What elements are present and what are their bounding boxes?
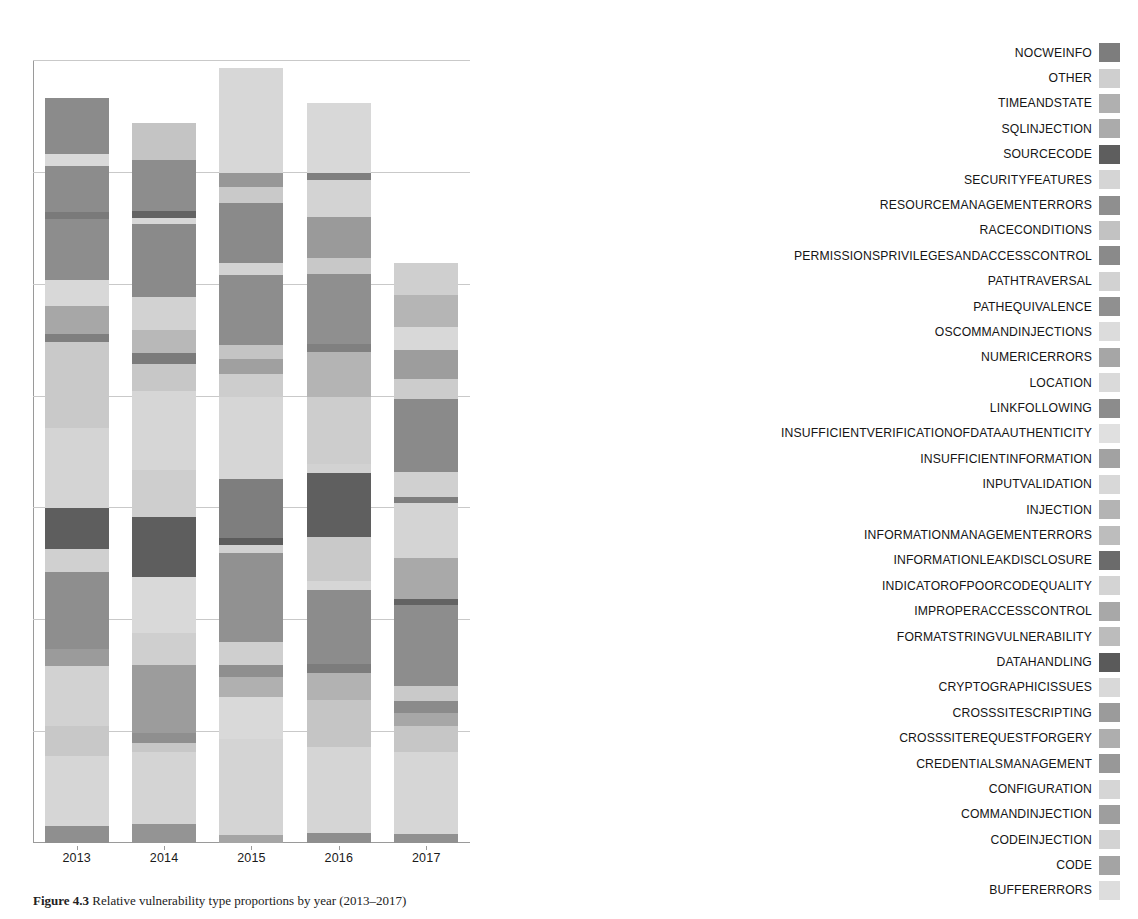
bar-segment[interactable]: [307, 747, 371, 832]
bar-segment[interactable]: [132, 470, 196, 518]
bar-stack[interactable]: [219, 68, 283, 843]
legend-item[interactable]: CRYPTOGRAPHICISSUES: [650, 675, 1120, 700]
legend-item[interactable]: INJECTION: [650, 497, 1120, 522]
legend-item[interactable]: SECURITYFEATURES: [650, 167, 1120, 192]
bar-segment[interactable]: [219, 173, 283, 187]
bar-segment[interactable]: [394, 558, 458, 599]
bar-stack[interactable]: [307, 103, 371, 843]
bar-segment[interactable]: [394, 327, 458, 350]
bar-segment[interactable]: [45, 666, 109, 726]
bar-segment[interactable]: [394, 701, 458, 713]
bar-segment[interactable]: [307, 274, 371, 344]
bar-segment[interactable]: [307, 581, 371, 590]
bar-segment[interactable]: [132, 733, 196, 742]
bar-segment[interactable]: [132, 824, 196, 843]
bar-segment[interactable]: [45, 826, 109, 842]
bar-segment[interactable]: [394, 686, 458, 702]
bar-segment[interactable]: [219, 345, 283, 359]
bar-segment[interactable]: [394, 295, 458, 327]
bar-segment[interactable]: [219, 642, 283, 665]
legend-item[interactable]: PATHTRAVERSAL: [650, 269, 1120, 294]
bar-segment[interactable]: [132, 752, 196, 824]
legend-item[interactable]: FORMATSTRINGVULNERABILITY: [650, 624, 1120, 649]
legend-item[interactable]: CREDENTIALSMANAGEMENT: [650, 751, 1120, 776]
bar-segment[interactable]: [307, 473, 371, 537]
bar-stack[interactable]: [394, 263, 458, 843]
legend-item[interactable]: COMMANDINJECTION: [650, 802, 1120, 827]
legend-item[interactable]: TIMEANDSTATE: [650, 91, 1120, 116]
legend-item[interactable]: LOCATION: [650, 370, 1120, 395]
bar-segment[interactable]: [219, 677, 283, 697]
bar-segment[interactable]: [45, 726, 109, 757]
legend-item[interactable]: INPUTVALIDATION: [650, 472, 1120, 497]
bar-segment[interactable]: [219, 739, 283, 835]
bar-segment[interactable]: [307, 103, 371, 173]
bar-column[interactable]: [297, 60, 381, 843]
bar-segment[interactable]: [307, 180, 371, 217]
bar-segment[interactable]: [45, 508, 109, 548]
bar-segment[interactable]: [219, 263, 283, 275]
bar-segment[interactable]: [219, 68, 283, 173]
bar-segment[interactable]: [219, 275, 283, 345]
legend-item[interactable]: SQLINJECTION: [650, 116, 1120, 141]
bar-segment[interactable]: [45, 98, 109, 154]
bar-segment[interactable]: [132, 211, 196, 218]
bar-segment[interactable]: [132, 364, 196, 391]
bar-segment[interactable]: [307, 700, 371, 747]
bar-segment[interactable]: [219, 479, 283, 537]
bar-stack[interactable]: [132, 123, 196, 843]
bar-segment[interactable]: [394, 379, 458, 399]
bar-segment[interactable]: [219, 359, 283, 375]
bar-segment[interactable]: [132, 297, 196, 329]
bar-segment[interactable]: [307, 173, 371, 180]
legend-item[interactable]: SOURCECODE: [650, 142, 1120, 167]
bar-segment[interactable]: [219, 187, 283, 203]
bar-column[interactable]: [122, 60, 206, 843]
bar-segment[interactable]: [45, 572, 109, 649]
bar-segment[interactable]: [45, 428, 109, 508]
bar-segment[interactable]: [132, 577, 196, 632]
bar-column[interactable]: [209, 60, 293, 843]
bar-segment[interactable]: [219, 553, 283, 642]
legend-item[interactable]: CROSSSITEREQUESTFORGERY: [650, 726, 1120, 751]
bar-segment[interactable]: [132, 160, 196, 210]
bar-segment[interactable]: [45, 306, 109, 334]
legend-item[interactable]: IMPROPERACCESSCONTROL: [650, 599, 1120, 624]
bar-segment[interactable]: [394, 726, 458, 752]
bar-segment[interactable]: [132, 123, 196, 160]
bar-segment[interactable]: [45, 649, 109, 666]
bar-segment[interactable]: [394, 713, 458, 726]
bar-segment[interactable]: [307, 464, 371, 473]
bar-segment[interactable]: [394, 472, 458, 498]
bar-segment[interactable]: [307, 590, 371, 664]
bar-segment[interactable]: [307, 673, 371, 700]
bar-segment[interactable]: [394, 350, 458, 379]
legend-item[interactable]: LINKFOLLOWING: [650, 395, 1120, 420]
bar-segment[interactable]: [45, 342, 109, 428]
bar-segment[interactable]: [219, 697, 283, 739]
bar-segment[interactable]: [307, 397, 371, 464]
bar-segment[interactable]: [132, 330, 196, 354]
bar-segment[interactable]: [132, 665, 196, 733]
legend-item[interactable]: CODE: [650, 853, 1120, 878]
legend-item[interactable]: INSUFFICIENTINFORMATION: [650, 446, 1120, 471]
legend-item[interactable]: OSCOMMANDINJECTIONS: [650, 319, 1120, 344]
bar-segment[interactable]: [45, 154, 109, 166]
bar-segment[interactable]: [394, 605, 458, 686]
bar-segment[interactable]: [132, 633, 196, 665]
legend-item[interactable]: RACECONDITIONS: [650, 218, 1120, 243]
bar-segment[interactable]: [394, 399, 458, 472]
legend-item[interactable]: PERMISSIONSPRIVILEGESANDACCESSCONTROL: [650, 243, 1120, 268]
bar-segment[interactable]: [394, 752, 458, 833]
bar-segment[interactable]: [219, 665, 283, 677]
bar-segment[interactable]: [45, 549, 109, 572]
bar-segment[interactable]: [394, 834, 458, 843]
bar-segment[interactable]: [219, 538, 283, 546]
bar-column[interactable]: [35, 60, 119, 843]
bar-segment[interactable]: [307, 217, 371, 258]
legend-item[interactable]: OTHER: [650, 65, 1120, 90]
bar-segment[interactable]: [307, 537, 371, 581]
bar-segment[interactable]: [45, 756, 109, 826]
bar-segment[interactable]: [307, 344, 371, 351]
bar-segment[interactable]: [307, 258, 371, 274]
